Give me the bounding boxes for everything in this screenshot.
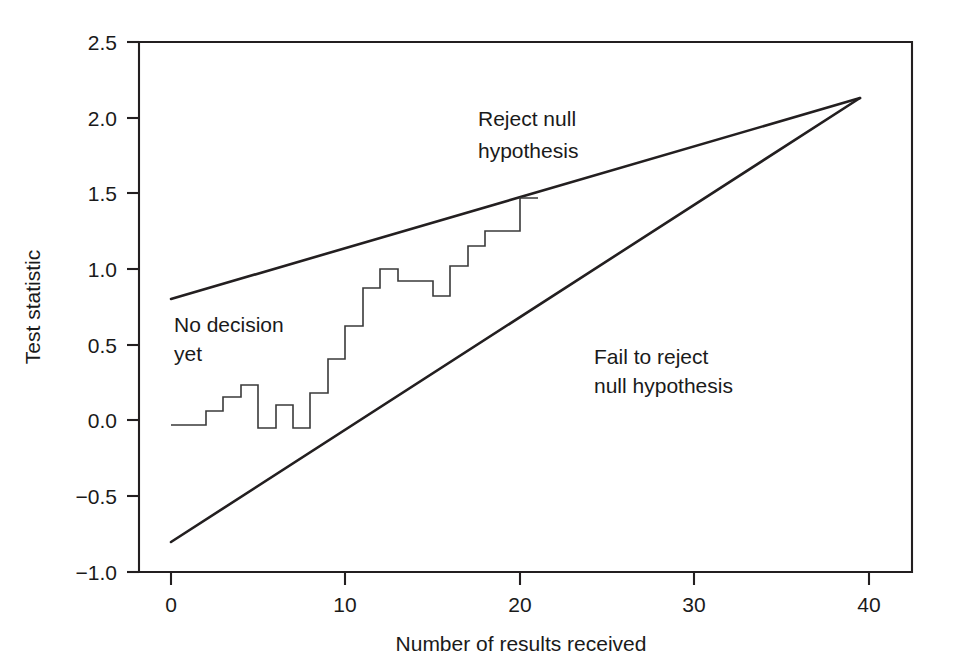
y-label-1.0: 1.0 — [88, 258, 117, 281]
x-label-10: 10 — [333, 593, 356, 616]
y-label-2.5: 2.5 — [88, 31, 117, 54]
y-label-2.0: 2.0 — [88, 107, 117, 130]
annotation-reject-null-line1: Reject null — [478, 107, 576, 130]
annotation-no-decision-line1: No decision — [174, 313, 284, 336]
annotation-no-decision-line2: yet — [174, 342, 202, 365]
y-label-neg0.5: −0.5 — [76, 485, 117, 508]
x-label-20: 20 — [508, 593, 531, 616]
chart-background — [0, 0, 958, 669]
y-label-0.5: 0.5 — [88, 334, 117, 357]
x-label-30: 30 — [682, 593, 705, 616]
annotation-reject-null-line2: hypothesis — [478, 139, 578, 162]
y-label-neg1.0: −1.0 — [76, 561, 117, 584]
y-label-0.0: 0.0 — [88, 409, 117, 432]
x-label-0: 0 — [165, 593, 177, 616]
y-label-1.5: 1.5 — [88, 182, 117, 205]
chart-figure: 2.5 2.0 1.5 1.0 0.5 0.0 −0.5 −1.0 0 10 2… — [0, 0, 958, 669]
annotation-fail-to-reject-line2: null hypothesis — [594, 374, 733, 397]
y-axis-title: Test statistic — [21, 250, 44, 364]
x-label-40: 40 — [857, 593, 880, 616]
sequential-analysis-chart: 2.5 2.0 1.5 1.0 0.5 0.0 −0.5 −1.0 0 10 2… — [0, 0, 958, 669]
annotation-fail-to-reject-line1: Fail to reject — [594, 345, 709, 368]
x-axis-title: Number of results received — [396, 632, 647, 655]
